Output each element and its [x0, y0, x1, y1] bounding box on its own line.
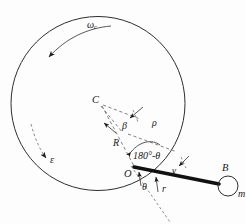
line-c-to-o — [102, 106, 134, 166]
point-B-label: B — [222, 162, 229, 173]
omega-c-arc-arrow — [49, 26, 111, 57]
mass-m-label: m — [238, 188, 245, 199]
epsilon-arc-arrow — [31, 124, 46, 158]
radius-R-label: R — [112, 137, 119, 148]
beta-label: β — [121, 120, 127, 131]
beta-tick-arrow — [130, 107, 143, 118]
angle-180-minus-theta-label: 180°-θ — [133, 150, 160, 161]
radius-r-label: r — [162, 183, 166, 194]
line-rho — [128, 134, 177, 152]
omega-c-label: ωc — [87, 19, 97, 31]
mass-circle — [218, 176, 238, 196]
point-c-label: C — [92, 94, 100, 105]
r-small-arrow — [156, 177, 158, 192]
theta-label: θ — [142, 181, 147, 192]
rho-label: ρ — [151, 117, 157, 128]
gamma-tick — [181, 157, 186, 168]
gamma-arrow — [179, 156, 189, 166]
kinematics-figure: ωc ε C β R ρ 180°-θ O θ r γ B m — [0, 0, 246, 224]
origin-O-label: O — [124, 168, 132, 179]
figure-canvas: ωc ε C β R ρ 180°-θ O θ r γ B m — [0, 0, 246, 224]
epsilon-label: ε — [50, 154, 54, 165]
line-c-to-rho-start — [103, 105, 140, 119]
line-c-to-junction — [101, 106, 123, 133]
